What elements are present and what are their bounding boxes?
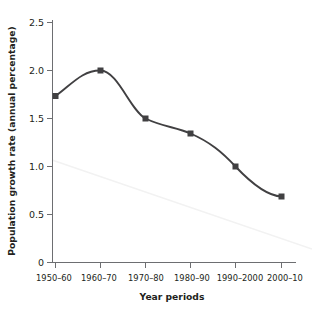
y-tick-label-2-0: 2.0 [29, 65, 44, 76]
y-tick-label-1-5: 1.5 [29, 113, 44, 124]
x-tick-label-1: 1960–70 [81, 273, 117, 283]
x-tick-label-2: 1970–80 [128, 273, 164, 283]
data-point-1990-2000 [233, 164, 239, 170]
faint-diagonal-artifact [52, 160, 312, 249]
data-point-2000-10 [279, 194, 285, 200]
population-growth-rate-chart: 2.5 2.0 1.5 1.0 0.5 0 1950–60 1960–70 19… [0, 0, 312, 316]
series-line-population-growth-rate [56, 70, 282, 196]
y-tick-label-2-5: 2.5 [29, 17, 44, 28]
x-axis-ticks [56, 263, 282, 269]
y-axis-title: Population growth rate (annual percentag… [6, 26, 17, 255]
y-axis-tick-labels: 2.5 2.0 1.5 1.0 0.5 0 [29, 17, 44, 268]
x-axis-title: Year periods [139, 291, 205, 302]
x-axis-tick-labels: 1950–60 1960–70 1970–80 1980–90 1990–200… [36, 273, 303, 283]
y-tick-label-0-5: 0.5 [29, 209, 44, 220]
x-tick-label-4: 1990–2000 [217, 273, 263, 283]
data-point-1950-60 [53, 93, 59, 99]
x-tick-label-3: 1980–90 [174, 273, 210, 283]
chart-canvas: 2.5 2.0 1.5 1.0 0.5 0 1950–60 1960–70 19… [0, 0, 312, 316]
data-point-1980-90 [188, 131, 194, 137]
y-axis-ticks [47, 23, 53, 263]
data-point-1960-70 [98, 68, 104, 74]
x-tick-label-5: 2000–10 [267, 273, 303, 283]
y-tick-label-0: 0 [38, 257, 44, 268]
y-tick-label-1-0: 1.0 [29, 161, 44, 172]
x-tick-label-0: 1950–60 [36, 273, 72, 283]
data-point-1970-80 [143, 116, 149, 122]
